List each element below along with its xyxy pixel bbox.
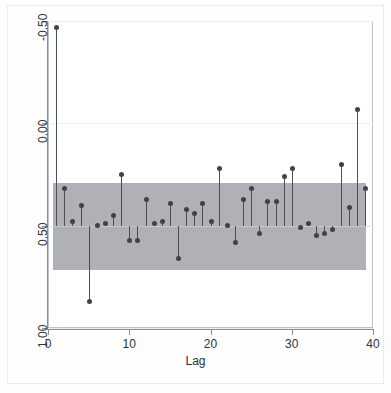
acf-marker xyxy=(111,213,116,218)
acf-marker xyxy=(225,223,230,228)
acf-marker xyxy=(103,221,108,226)
acf-stem xyxy=(267,201,268,226)
y-axis-label: -0.50 xyxy=(36,14,50,41)
acf-stem xyxy=(89,226,90,302)
y-axis-label: 0.00 xyxy=(36,120,50,143)
acf-stem xyxy=(178,226,179,259)
acf-marker xyxy=(54,25,59,30)
x-axis-tick xyxy=(129,330,130,335)
acf-marker xyxy=(339,162,344,167)
acf-stem xyxy=(357,109,358,226)
plot-area xyxy=(48,21,373,328)
acf-stem xyxy=(292,168,293,225)
acf-marker xyxy=(119,172,124,177)
acf-marker xyxy=(168,201,173,206)
acf-marker xyxy=(209,219,214,224)
acf-stem xyxy=(146,199,147,226)
acf-marker xyxy=(152,221,157,226)
y-axis-label: 0.50 xyxy=(36,222,50,245)
acf-stem xyxy=(81,205,82,226)
y-axis-line xyxy=(47,21,48,329)
acf-marker xyxy=(176,256,181,261)
gridline-y xyxy=(48,21,373,22)
x-axis-tick xyxy=(48,330,49,335)
acf-marker xyxy=(233,240,238,245)
acf-stem xyxy=(276,201,277,226)
x-axis-label: 10 xyxy=(109,337,149,351)
acf-marker xyxy=(135,238,140,243)
acf-stem xyxy=(341,164,342,225)
acf-marker xyxy=(363,186,368,191)
acf-marker xyxy=(347,205,352,210)
acf-stem xyxy=(170,203,171,226)
acf-marker xyxy=(79,203,84,208)
acf-marker xyxy=(127,238,132,243)
acf-stem xyxy=(349,207,350,225)
x-axis-tick xyxy=(211,330,212,335)
acf-marker xyxy=(87,299,92,304)
acf-marker xyxy=(217,166,222,171)
acf-stem xyxy=(121,175,122,226)
acf-marker xyxy=(274,199,279,204)
acf-stem xyxy=(251,189,252,226)
x-axis-label: 0 xyxy=(28,337,68,351)
acf-marker xyxy=(95,223,100,228)
acf-stem xyxy=(284,177,285,226)
x-axis-title: Lag xyxy=(0,354,391,368)
acf-marker xyxy=(241,197,246,202)
x-axis-label: 30 xyxy=(272,337,312,351)
x-axis-label: 20 xyxy=(191,337,231,351)
acf-stem xyxy=(365,189,366,226)
x-axis-tick xyxy=(373,330,374,335)
acf-figure: 1.000.500.00-0.50 010203040 Lag xyxy=(0,0,391,393)
acf-stem xyxy=(64,189,65,226)
x-axis-label: 40 xyxy=(353,337,391,351)
acf-marker xyxy=(160,219,165,224)
acf-stem xyxy=(56,27,57,226)
acf-stem xyxy=(202,203,203,226)
gridline-y xyxy=(48,123,373,124)
acf-stem xyxy=(243,199,244,226)
acf-marker xyxy=(290,166,295,171)
acf-marker xyxy=(282,174,287,179)
acf-marker xyxy=(355,107,360,112)
acf-marker xyxy=(144,197,149,202)
x-axis-tick xyxy=(292,330,293,335)
acf-stem xyxy=(219,168,220,225)
acf-marker xyxy=(184,207,189,212)
